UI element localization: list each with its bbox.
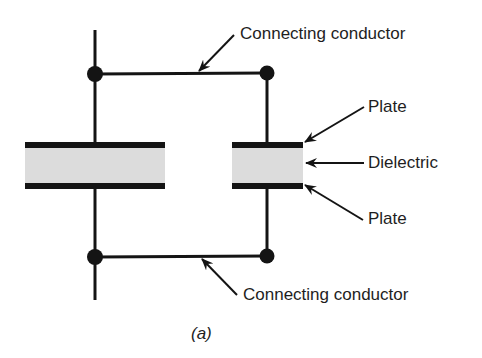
- left-top-plate: [25, 142, 165, 148]
- label-dielectric: Dielectric: [368, 154, 438, 171]
- top-connecting-conductor: [95, 73, 267, 74]
- arrow-bottom-plate: [305, 185, 363, 220]
- label-top-connecting-conductor: Connecting conductor: [240, 25, 405, 42]
- junction-dot-top-left: [87, 66, 103, 82]
- right-dielectric: [232, 147, 303, 184]
- left-dielectric: [25, 147, 165, 184]
- arrow-bottom-conductor: [202, 259, 237, 295]
- right-top-plate: [232, 142, 303, 148]
- arrow-top-plate: [305, 107, 364, 142]
- label-bottom-plate: Plate: [368, 210, 407, 227]
- label-bottom-connecting-conductor: Connecting conductor: [243, 286, 408, 303]
- capacitor-diagram: [0, 0, 482, 358]
- junction-dot-bottom-left: [87, 249, 103, 265]
- junction-dot-bottom-right: [260, 249, 275, 264]
- arrow-top-conductor: [199, 35, 234, 71]
- junction-dot-top-right: [260, 66, 275, 81]
- right-bottom-plate: [232, 183, 303, 189]
- left-bottom-plate: [25, 183, 165, 189]
- label-top-plate: Plate: [368, 98, 407, 115]
- bottom-connecting-conductor: [95, 256, 267, 257]
- figure-caption: (a): [191, 325, 212, 342]
